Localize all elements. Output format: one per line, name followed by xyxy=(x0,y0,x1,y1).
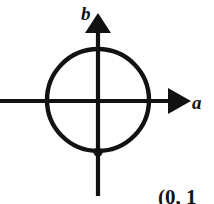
axis-label-a: a xyxy=(192,92,202,113)
axis-label-b: b xyxy=(81,3,91,24)
horizontal-axis-arrowhead xyxy=(168,88,191,114)
diagram-canvas: a b (0, 1 xyxy=(0,0,214,204)
point-coordinate-label: (0, 1 xyxy=(158,185,197,204)
unit-circle-diagram: a b (0, 1 xyxy=(0,0,214,204)
point-marker xyxy=(93,147,102,156)
